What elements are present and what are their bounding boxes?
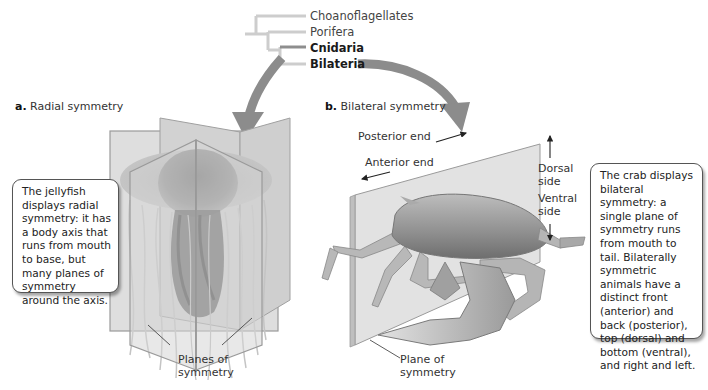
leader-line — [370, 340, 400, 358]
panel-a-title: a. Radial symmetry — [15, 100, 123, 113]
posterior-arrow-icon — [436, 133, 466, 142]
taxon-choanoflagellates: Choanoflagellates — [310, 9, 413, 23]
planes-of-symmetry-label: Planes of symmetry — [178, 353, 234, 379]
dorsal-side-label: Dorsal side — [538, 162, 573, 188]
label-line: Planes of — [178, 353, 234, 366]
label-line: Dorsal — [538, 162, 573, 175]
label-line: Plane of — [400, 353, 456, 366]
posterior-end-label: Posterior end — [358, 130, 431, 143]
ventral-side-label: Ventral side — [538, 192, 577, 218]
panel-b-title-text: Bilateral symmetry — [341, 100, 446, 113]
anterior-arrow-icon — [362, 172, 390, 179]
label-line: side — [538, 175, 573, 188]
panel-b-letter: b. — [325, 100, 337, 113]
panel-a-letter: a. — [15, 100, 27, 113]
taxon-bilateria: Bilateria — [310, 57, 365, 71]
bilateral-callout: The crab displays bilateral symmetry: a … — [590, 163, 703, 339]
panel-a-title-text: Radial symmetry — [30, 100, 123, 113]
label-line: symmetry — [178, 366, 234, 379]
jellyfish-illustration — [110, 118, 290, 380]
radial-callout: The jellyfish displays radial symmetry: … — [12, 179, 119, 293]
label-line: Ventral — [538, 192, 577, 205]
plane-of-symmetry-label: Plane of symmetry — [400, 353, 456, 379]
taxon-porifera: Porifera — [310, 25, 354, 39]
arrow-to-bilateral-icon — [358, 64, 470, 132]
phylogeny-tree — [245, 16, 306, 64]
label-line: side — [538, 205, 577, 218]
panel-b-title: b. Bilateral symmetry — [325, 100, 446, 113]
anterior-end-label: Anterior end — [365, 156, 434, 169]
taxon-cnidaria: Cnidaria — [310, 41, 364, 55]
label-line: symmetry — [400, 366, 456, 379]
